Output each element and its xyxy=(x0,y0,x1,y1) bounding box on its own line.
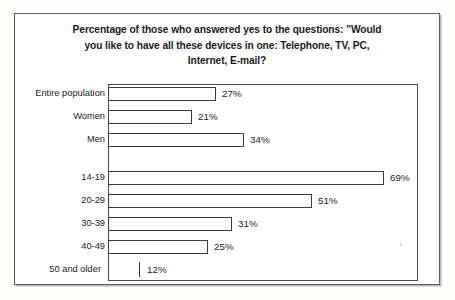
bar-row: Men34% xyxy=(0,132,455,147)
chart-title-line-3: Internet, E-mail? xyxy=(34,53,420,69)
bar xyxy=(108,110,192,124)
bar-value-label: 25% xyxy=(214,239,234,254)
bar-category-label: Men xyxy=(0,132,105,147)
bar-value-label: 27% xyxy=(222,86,242,101)
bar-row: 40-4925% xyxy=(0,239,455,254)
bar-value-label: 12% xyxy=(147,262,167,277)
bar-row: Women21% xyxy=(0,109,455,124)
chart-title-line-2: you like to have all these devices in on… xyxy=(34,38,420,54)
bar-value-label: 31% xyxy=(238,216,258,231)
bar xyxy=(108,171,384,185)
bar-value-label: 34% xyxy=(250,132,270,147)
bar-value-label: 21% xyxy=(198,109,218,124)
scan-speck xyxy=(400,243,402,246)
bar-value-label: 51% xyxy=(318,193,338,208)
bar-row: 50 and older12% xyxy=(0,262,455,277)
bar-category-label: 14-19 xyxy=(0,170,105,185)
bar xyxy=(108,133,244,147)
bar-category-label: 20-29 xyxy=(0,193,105,208)
bar xyxy=(108,240,208,254)
bar-category-label: 30-39 xyxy=(0,216,105,231)
bar-value-label: 69% xyxy=(390,170,410,185)
chart-title-line-1: Percentage of those who answered yes to … xyxy=(34,22,420,38)
bar xyxy=(108,194,312,208)
bar-category-label: Women xyxy=(0,109,105,124)
bar-row: 30-3931% xyxy=(0,216,455,231)
chart-page: Percentage of those who answered yes to … xyxy=(0,0,455,300)
bar-category-label: 40-49 xyxy=(0,239,105,254)
bar xyxy=(108,87,216,101)
bar xyxy=(139,262,140,277)
bar-category-label: 50 and older xyxy=(0,262,101,277)
bar-row: Entire population27% xyxy=(0,86,455,101)
bar xyxy=(108,217,232,231)
bar-category-label: Entire population xyxy=(0,86,105,101)
chart-title: Percentage of those who answered yes to … xyxy=(34,22,420,69)
bar-row: 20-2951% xyxy=(0,193,455,208)
bar-row: 14-1969% xyxy=(0,170,455,185)
